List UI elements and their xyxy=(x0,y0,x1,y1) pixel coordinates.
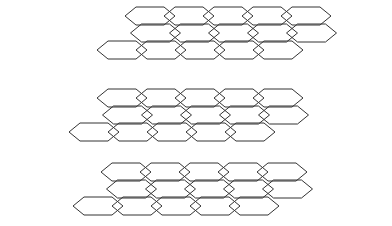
structure-bottom-row-front xyxy=(73,197,279,215)
honeycomb-lattice-figure xyxy=(0,0,392,226)
hex-cell xyxy=(214,89,264,107)
hex-cell xyxy=(147,123,197,141)
hex-cell xyxy=(220,106,270,124)
structure-top-row-middle xyxy=(131,24,337,42)
hex-cell xyxy=(179,163,229,181)
hex-cell xyxy=(136,41,186,59)
hex-cell xyxy=(112,197,162,215)
hex-cell xyxy=(108,123,158,141)
hex-cell xyxy=(253,41,303,59)
hex-cell xyxy=(190,197,240,215)
structure-top-row-front xyxy=(97,41,303,59)
hex-cell xyxy=(214,41,264,59)
hex-cell xyxy=(287,24,337,42)
structure-middle-row-middle xyxy=(103,106,309,124)
hex-cell xyxy=(146,180,196,198)
hex-cell xyxy=(73,197,123,215)
hex-cell xyxy=(175,89,225,107)
hex-cell xyxy=(203,7,253,25)
hex-cell xyxy=(185,180,235,198)
figure-canvas xyxy=(0,0,392,226)
hex-cell xyxy=(224,180,274,198)
hex-cell xyxy=(175,41,225,59)
hex-cell xyxy=(140,163,190,181)
structure-bottom-row-back xyxy=(101,163,307,181)
structure-middle-row-back xyxy=(97,89,303,107)
hex-cell xyxy=(225,123,275,141)
hex-cell xyxy=(218,163,268,181)
hex-cell xyxy=(242,7,292,25)
hex-cell xyxy=(103,106,153,124)
hex-cell xyxy=(263,180,313,198)
hex-cell xyxy=(107,180,157,198)
structure-middle-row-front xyxy=(69,123,275,141)
hex-cell xyxy=(253,89,303,107)
hex-cell xyxy=(186,123,236,141)
hex-cell xyxy=(131,24,181,42)
hex-cell xyxy=(142,106,192,124)
hex-cell xyxy=(97,89,147,107)
structure-top-row-back xyxy=(125,7,331,25)
hex-cell xyxy=(69,123,119,141)
structure-bottom xyxy=(73,163,313,215)
hex-cell xyxy=(101,163,151,181)
hex-cell xyxy=(164,7,214,25)
hex-cell xyxy=(125,7,175,25)
hex-cell xyxy=(181,106,231,124)
hex-cell xyxy=(97,41,147,59)
hex-cell xyxy=(170,24,220,42)
hex-cell xyxy=(259,106,309,124)
hex-cell xyxy=(209,24,259,42)
lattice-root xyxy=(69,7,337,215)
hex-cell xyxy=(257,163,307,181)
structure-middle xyxy=(69,89,309,141)
structure-top xyxy=(97,7,337,59)
hex-cell xyxy=(151,197,201,215)
structure-bottom-row-middle xyxy=(107,180,313,198)
hex-cell xyxy=(281,7,331,25)
hex-cell xyxy=(136,89,186,107)
hex-cell xyxy=(229,197,279,215)
hex-cell xyxy=(248,24,298,42)
